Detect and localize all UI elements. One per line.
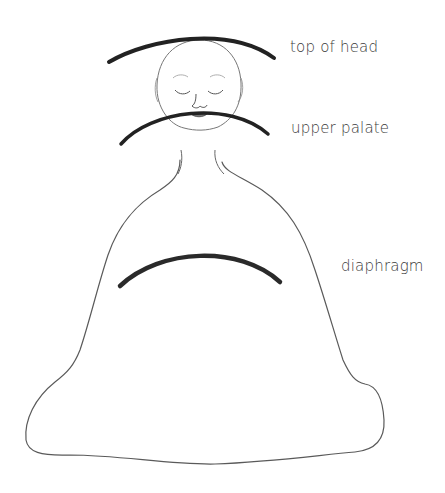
label-top-of-head: top of head (290, 38, 378, 56)
label-upper-palate: upper palate (291, 119, 389, 137)
eye-left-closed (175, 90, 190, 94)
eyebrow-left (173, 75, 188, 78)
diaphragm-arc (120, 256, 280, 286)
diagram-canvas: top of head upper palate diaphragm (0, 0, 445, 493)
label-diaphragm: diaphragm (341, 257, 424, 275)
eyebrow-right (210, 75, 225, 78)
ear-right (238, 78, 243, 102)
body-outline (26, 160, 384, 464)
figure-drawing (0, 0, 445, 493)
upper-palate-arc (121, 113, 268, 144)
top-of-head-arc (109, 39, 274, 62)
eye-right-closed (208, 90, 223, 94)
nose (192, 94, 207, 108)
